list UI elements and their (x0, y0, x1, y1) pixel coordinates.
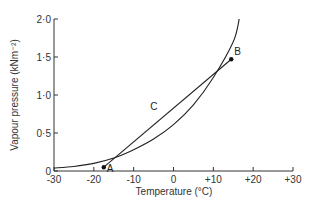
x-tick-label: 0 (171, 174, 177, 185)
line-label-c: C (150, 101, 157, 112)
axes (54, 19, 293, 171)
point-a-marker (102, 165, 106, 169)
saturation-curve (54, 19, 239, 168)
x-axis-title: Temperature (°C) (136, 186, 213, 197)
x-tick-label: +30 (285, 174, 302, 185)
y-axis-ticks: 00·51·01·52·0 (37, 14, 58, 177)
x-tick-label: +20 (245, 174, 262, 185)
y-tick-label: 1·0 (37, 90, 52, 101)
series: C (54, 19, 239, 168)
y-axis-title: Vapour pressure (kNm⁻²) (9, 39, 20, 151)
point-b-marker (229, 57, 233, 61)
x-tick-label: -20 (87, 174, 102, 185)
x-axis-ticks: -30-20-100+10+20+30 (47, 167, 302, 185)
point-b-label: B (234, 46, 241, 57)
y-tick-label: 1·5 (37, 52, 52, 63)
y-tick-label: 2·0 (37, 14, 52, 25)
x-tick-label: -30 (47, 174, 62, 185)
y-tick-label: 0·5 (37, 128, 52, 139)
point-a-label: A (107, 163, 114, 174)
x-tick-label: -10 (126, 174, 141, 185)
mixing-line (104, 59, 231, 167)
vapour-pressure-chart: 00·51·01·52·0 -30-20-100+10+20+30 C AB T… (0, 0, 314, 205)
x-tick-label: +10 (205, 174, 222, 185)
